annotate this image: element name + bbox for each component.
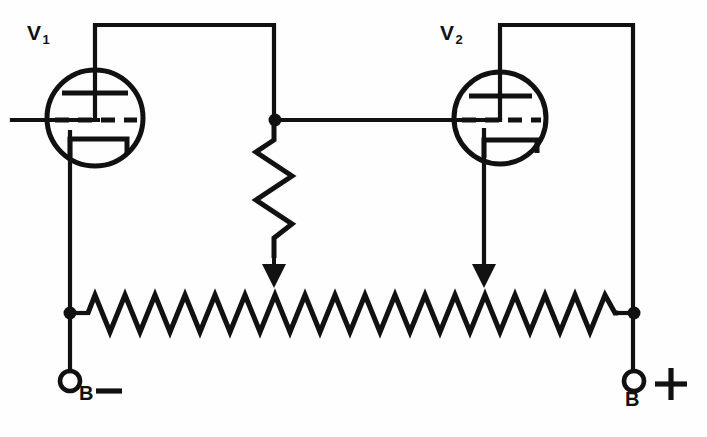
junction-left-rail — [64, 307, 77, 320]
resistor-zigzag-vertical — [256, 122, 292, 258]
wire-v1-plate-to-center-node — [95, 25, 274, 120]
sign-glyph-group — [96, 368, 687, 400]
tube-label-v2-subscript: 2 — [456, 32, 464, 47]
tube-label-v1-letter: V — [27, 21, 42, 44]
junction-dot-group — [64, 114, 641, 320]
tap-arrow-right-group — [472, 264, 496, 288]
tube-label-v2: V2 — [440, 22, 462, 43]
cathode-electrode-v1 — [70, 139, 127, 160]
circuit-diagram-canvas: V1 V2 B B — [0, 0, 707, 437]
terminal-group — [60, 371, 644, 391]
junction-center — [269, 114, 282, 127]
tap-arrow-head-left — [262, 264, 286, 288]
circuit-schematic-svg — [0, 0, 707, 437]
terminal-b-minus-ring[interactable] — [60, 371, 80, 391]
junction-right-rail — [628, 307, 641, 320]
horizontal-bleeder-resistor — [88, 295, 618, 332]
resistor-zigzag-horizontal — [88, 295, 618, 332]
tap-arrow-head-right — [472, 264, 496, 288]
tube-label-v1: V1 — [27, 22, 49, 43]
vertical-potentiometer — [256, 122, 292, 288]
tube-label-v1-subscript: 1 — [43, 32, 51, 47]
terminal-label-b-minus: B — [79, 383, 93, 403]
terminal-label-b-plus: B — [625, 389, 639, 409]
tube-label-v2-letter: V — [440, 21, 455, 44]
